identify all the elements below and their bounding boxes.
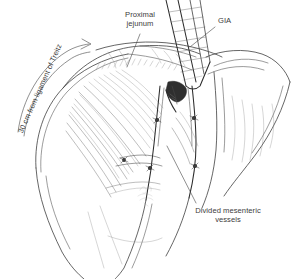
proximal-jejunum-loop: [63, 42, 290, 88]
divided-bowel-end: [166, 81, 187, 112]
surgical-illustration-figure: .ln{fill:none;stroke:#3f3f3f;stroke-widt…: [0, 0, 293, 279]
label-divided-mesenteric-vessels: Divided mesenteric vessels: [174, 206, 282, 224]
illustration-canvas: .ln{fill:none;stroke:#3f3f3f;stroke-widt…: [0, 0, 293, 279]
mesentery-fan: [36, 54, 177, 279]
label-proximal-jejunum: Proximal jejunum: [108, 10, 172, 28]
label-gia: GIA: [218, 16, 246, 25]
distal-jejunum-loop: [202, 72, 290, 208]
gia-stapler: [166, 0, 210, 89]
